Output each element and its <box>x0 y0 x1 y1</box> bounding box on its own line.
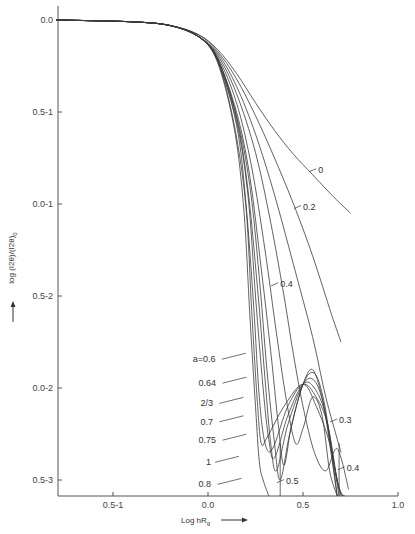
y-axis-title-sub: 0 <box>12 232 18 236</box>
curve-label: 2/3 <box>200 398 213 408</box>
label-leader <box>219 397 243 403</box>
curve-a-a-0-6 <box>56 20 337 496</box>
curve-a-0-5 <box>56 20 337 496</box>
x-tick-label: 0.0 <box>202 500 215 510</box>
y-tick-label: 0.5-2 <box>32 291 53 301</box>
y-tick-label: 0.0-1 <box>32 199 53 209</box>
curve-a-0-2 <box>56 20 341 342</box>
curve-label: 0.64 <box>199 378 217 388</box>
y-axis-arrow-icon <box>11 301 16 322</box>
label-leader <box>309 169 316 172</box>
x-tick-label: 0.5-1 <box>103 500 124 510</box>
curve-label: 0.8 <box>199 479 212 489</box>
x-ticks: 0.5-10.00.51.0 <box>103 492 405 510</box>
curve-label: 1 <box>206 457 211 467</box>
label-leader <box>218 478 242 484</box>
curve-a-1 <box>56 20 269 496</box>
curve-label: 0.5 <box>286 476 299 486</box>
vertical-lines <box>280 443 339 496</box>
curve-label: 0.4 <box>280 279 293 289</box>
y-tick-label: 0.5-1 <box>32 107 53 117</box>
y-tick-label: 0.0 <box>40 15 53 25</box>
curve-label: a=0.6 <box>193 354 216 364</box>
x-axis-title: Log hRg <box>181 516 210 526</box>
curve-a-0 <box>56 20 351 213</box>
label-leader <box>223 377 247 383</box>
label-leader <box>330 419 337 422</box>
svg-text:Log hRg: Log hRg <box>181 516 210 526</box>
curve-label: 0.3 <box>339 415 352 425</box>
x-tick-label: 0.5 <box>297 500 310 510</box>
scattering-curves-chart: 0.00.5-10.0-10.5-20.0-20.5-3 0.5-10.00.5… <box>0 0 415 534</box>
y-tick-label: 0.5-3 <box>32 475 53 485</box>
label-leader <box>215 456 239 462</box>
curve-label: 0.4 <box>347 463 360 473</box>
y-tick-label: 0.0-2 <box>32 383 53 393</box>
y-axis-title: log (I2θ)/(I2θ)0 <box>7 232 18 284</box>
label-leader <box>271 283 278 286</box>
curve-label: 0.7 <box>200 417 213 427</box>
curve-label: 0 <box>318 165 323 175</box>
curve-label: 0.2 <box>303 202 316 212</box>
label-leader <box>222 353 246 359</box>
x-axis-title-sub: g <box>207 520 210 526</box>
curve-a-0-7 <box>56 20 341 496</box>
curve-a-0-64 <box>56 20 337 496</box>
x-axis-title-text: Log hR <box>181 516 207 525</box>
label-leader <box>219 416 243 422</box>
y-axis-title-text: log (I2θ)/(I2θ) <box>7 235 16 283</box>
svg-text:log (I2θ)/(I2θ)0: log (I2θ)/(I2θ)0 <box>7 232 18 284</box>
x-tick-label: 1.0 <box>392 500 405 510</box>
x-axis-arrow-icon <box>221 518 248 523</box>
curve-label: 0.75 <box>199 435 217 445</box>
curve-a-2-3 <box>56 20 339 496</box>
label-leader <box>223 434 247 440</box>
